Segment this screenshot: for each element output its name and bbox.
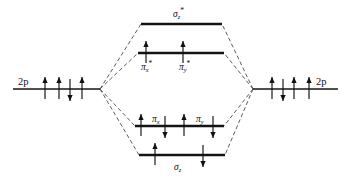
electron-arrow-left-2p-2-head [67, 95, 72, 101]
electron-arrow-left-2p-2 [67, 79, 72, 101]
electron-arrow-left-2p-3 [79, 77, 84, 99]
correlation-line-left-pi-bonding [100, 89, 135, 126]
label-sigma_z: σz [174, 162, 182, 173]
correlation-line-left-sigma-z [100, 89, 139, 155]
label-left_2p: 2p [18, 76, 29, 87]
electron-arrow-left-2p-0-head [42, 77, 47, 83]
electron-arrow-right-2p-3 [306, 77, 311, 99]
electron-arrow-sigma-z-0-head [152, 143, 157, 149]
correlation-line-right-pi-bonding [224, 89, 253, 126]
electron-arrow-right-2p-0-head [269, 77, 274, 83]
electron-arrow-pi-star-1-head [180, 41, 185, 47]
electron-arrow-right-2p-2-head [291, 77, 296, 83]
electron-arrow-right-2p-1 [280, 79, 285, 101]
correlation-lines-group [100, 24, 253, 155]
electron-arrow-left-2p-3-head [79, 77, 84, 83]
label-sigma_z_star: σz* [173, 6, 184, 20]
electron-arrow-sigma-z-1-head [200, 161, 205, 167]
label-pi_y_star: πy* [179, 59, 191, 73]
electron-arrow-right-2p-1-head [280, 95, 285, 101]
electron-arrow-pi-bonding-0-head [138, 114, 143, 120]
mo-energy-level-diagram: σz*πx*πy*πxπyσz2p2p [0, 0, 350, 180]
electron-arrow-right-2p-2 [291, 77, 296, 99]
electron-arrows-group [42, 41, 311, 167]
electron-arrow-left-2p-1 [56, 77, 61, 99]
label-right_2p: 2p [316, 76, 327, 87]
energy-levels-group [13, 24, 338, 155]
label-pi_y: πy [196, 114, 204, 125]
correlation-line-right-sigma-z [225, 89, 253, 155]
label-pi_x: πx [152, 114, 160, 125]
electron-arrow-left-2p-0 [42, 77, 47, 99]
electron-arrow-pi-bonding-2-head [181, 114, 186, 120]
electron-arrow-pi-bonding-1-head [162, 132, 167, 138]
electron-arrow-left-2p-1-head [56, 77, 61, 83]
electron-arrow-pi-star-0-head [143, 41, 148, 47]
label-pi_x_star: πx* [141, 59, 153, 73]
electron-arrow-pi-bonding-3-head [210, 132, 215, 138]
electron-arrow-right-2p-0 [269, 77, 274, 99]
mo-diagram-canvas: σz*πx*πy*πxπyσz2p2p [0, 0, 350, 180]
electron-arrow-right-2p-3-head [306, 77, 311, 83]
